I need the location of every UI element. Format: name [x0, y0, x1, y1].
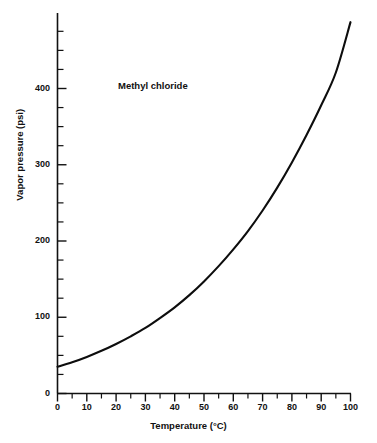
y-axis-minor-ticks	[58, 31, 64, 374]
plot-area-svg	[0, 0, 377, 443]
x-tick-label-100: 100	[331, 403, 371, 412]
x-axis-title: Temperature (°C)	[0, 421, 377, 431]
series-annotation-label: Methyl chloride	[118, 81, 188, 91]
y-axis-title: Vapor pressure (psi)	[15, 85, 25, 225]
y-tick-label-0: 0	[8, 389, 50, 398]
y-tick-label-200: 200	[8, 236, 50, 245]
axis-lines	[57, 13, 351, 394]
y-tick-label-100: 100	[8, 312, 50, 321]
y-axis-major-ticks	[58, 89, 67, 394]
vapor-pressure-chart-figure: 0100200300400 0102030405060708090100 Met…	[0, 0, 377, 443]
vapor-pressure-curve	[58, 22, 351, 367]
